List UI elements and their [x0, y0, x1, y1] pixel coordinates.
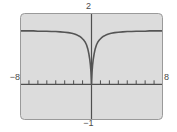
- plot-canvas: [20, 13, 163, 120]
- graph-figure: 2 −8 8 −1: [0, 0, 177, 132]
- plot-frame: [20, 13, 163, 120]
- x-min-label: −8: [2, 72, 20, 82]
- y-max-label: 2: [0, 1, 177, 11]
- x-max-label: 8: [164, 72, 177, 82]
